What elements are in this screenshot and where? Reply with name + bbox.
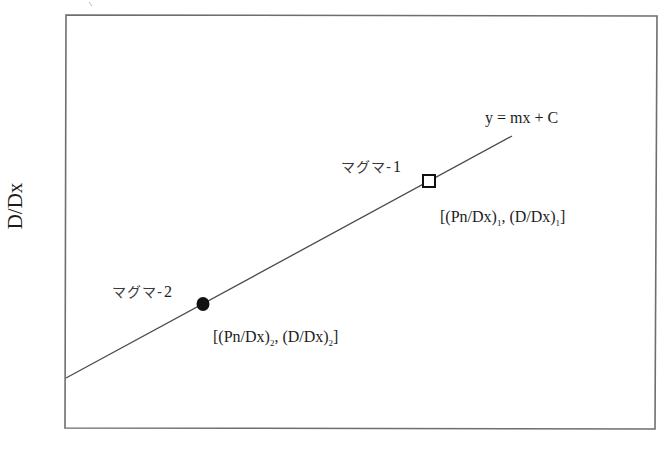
scan-mark — [89, 2, 92, 6]
magma-2-label-number: 2 — [164, 283, 173, 300]
magma-1-label-number: 1 — [393, 158, 402, 175]
magma-2-label: マグマ-2 — [112, 283, 173, 300]
magma-1-coordinates: [(Pn/Dx)1, (D/Dx)1] — [440, 208, 565, 228]
magma-2-coord-x: [(Pn/Dx) — [213, 328, 270, 346]
magma-1-square-marker-icon — [423, 175, 435, 187]
magma-2-coord-close: ] — [333, 328, 338, 345]
magma-1-coord-x: [(Pn/Dx) — [440, 208, 497, 226]
magma-2-dot-marker-icon — [197, 297, 210, 311]
line-equation-label: y = mx + C — [485, 109, 558, 127]
magma-1-coord-y: , (D/Dx) — [501, 208, 555, 226]
y-axis-label: D/Dx — [3, 182, 27, 229]
magma-mixing-diagram: D/Dx y = mx + C マグマ-1 [(Pn/Dx)1, (D/Dx)1… — [0, 0, 665, 449]
magma-2-coordinates: [(Pn/Dx)2, (D/Dx)2] — [213, 328, 338, 348]
magma-1-coord-close: ] — [560, 208, 565, 225]
magma-1-label: マグマ-1 — [341, 158, 402, 175]
magma-2-coord-y: , (D/Dx) — [274, 328, 328, 346]
plot-frame — [65, 15, 657, 429]
magma-2-label-text: マグマ- — [112, 284, 163, 300]
magma-1-label-text: マグマ- — [341, 159, 392, 175]
